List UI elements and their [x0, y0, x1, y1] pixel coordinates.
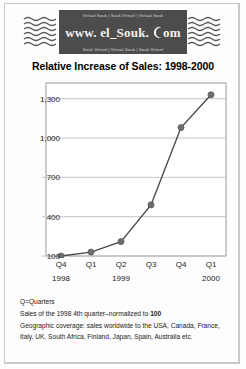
x-axis-year-label: 2000: [202, 274, 220, 283]
logo-wordmark-suffix: om: [163, 25, 181, 41]
logo-bottom-strip: Souk Virtuel | Virtual Souk | Souk Virtu…: [83, 47, 164, 52]
x-axis-quarter-label: Q3: [146, 260, 157, 269]
site-logo-banner: Virtual Souk | Souk Virtuel | Virtual So…: [0, 8, 246, 56]
footnote-normalization-text: Sales of the 1998 4th quarter–normalized…: [20, 310, 150, 317]
y-axis-tick-label: 400: [20, 212, 60, 221]
logo-top-strip: Virtual Souk | Souk Virtuel | Virtual So…: [83, 13, 164, 18]
y-axis-tick-label: 700: [20, 173, 60, 182]
crescent-moon-icon: [150, 26, 163, 39]
x-axis-quarter-label: Q2: [116, 260, 127, 269]
x-axis-quarter-label: Q4: [176, 260, 187, 269]
x-axis-labels: Q4Q1Q2Q3Q4Q1199819992000: [46, 260, 228, 290]
chart-title: Relative Increase of Sales: 1998-2000: [0, 60, 246, 72]
logo-box[interactable]: Virtual Souk | Souk Virtuel | Virtual So…: [59, 10, 187, 54]
x-axis-quarter-label: Q1: [206, 260, 217, 269]
y-axis-tick-label: 1,000: [20, 134, 60, 143]
footnote-normalization: Sales of the 1998 4th quarter–normalized…: [20, 308, 232, 320]
x-axis-quarter-label: Q1: [86, 260, 97, 269]
chart-footnotes: Q=Quarters Sales of the 1998 4th quarter…: [20, 296, 232, 343]
x-axis-year-label: 1999: [112, 274, 130, 283]
chart-plot-area: 1,3001,000700400100: [14, 82, 228, 258]
logo-wordmark: www. el_Souk. om: [65, 25, 181, 41]
left-squiggle-decoration: [23, 15, 59, 49]
chart-page: Virtual Souk | Souk Virtuel | Virtual So…: [0, 0, 246, 369]
x-axis-year-label: 1998: [52, 274, 70, 283]
x-axis-quarter-label: Q4: [56, 260, 67, 269]
right-squiggle-decoration: [187, 15, 223, 49]
logo-wordmark-text: www. el_Souk.: [65, 25, 149, 41]
footnote-geography: Geographic coverage: sales worldwide to …: [20, 320, 232, 344]
y-axis-tick-label: 1,300: [20, 94, 60, 103]
footnote-quarters: Q=Quarters: [20, 296, 232, 308]
line-chart-svg: [14, 82, 228, 258]
footnote-normalization-value: 100: [150, 310, 161, 317]
